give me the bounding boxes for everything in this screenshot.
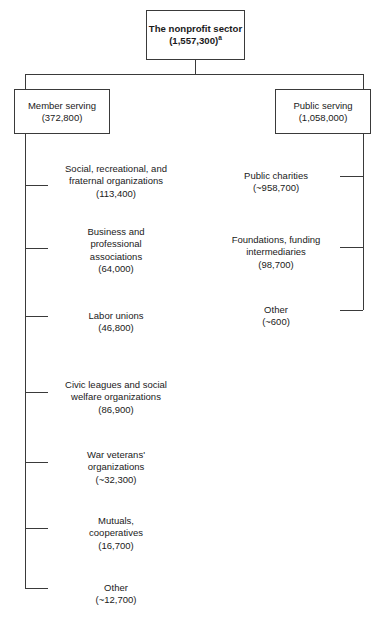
leaf-public-child-1: Foundations, funding intermediaries (98,…	[196, 234, 356, 271]
leaf-member-child-0: Social, recreational, and fraternal orga…	[26, 163, 206, 200]
branch-node-member-serving: Member serving (372,800)	[14, 89, 110, 134]
leaf-member-child-3: Civic leagues and social welfare organiz…	[26, 379, 206, 416]
branch-label-member-serving: Member serving	[28, 100, 96, 112]
root-node-nonprofit-sector: The nonprofit sector (1,557,300)a	[146, 10, 245, 60]
branch-node-public-serving: Public serving (1,058,000)	[275, 89, 371, 134]
connector-root-down	[195, 60, 196, 74]
footnote-marker-a: a	[218, 34, 222, 41]
connector-horizontal-bar	[25, 74, 364, 75]
root-node-label: The nonprofit sector	[149, 23, 242, 35]
leaf-public-child-2: Other (~600)	[196, 304, 356, 329]
leaf-member-child-6: Other (~12,700)	[26, 582, 206, 607]
connector-left-down	[25, 74, 26, 89]
leaf-public-child-0: Public charities (~958,700)	[196, 170, 356, 195]
branch-label-public-serving: Public serving	[293, 100, 352, 112]
branch-value-member-serving: (372,800)	[42, 112, 83, 124]
leaf-member-child-4: War veterans' organizations (~32,300)	[26, 449, 206, 486]
connector-right-down	[363, 74, 364, 89]
leaf-member-child-2: Labor unions (46,800)	[26, 310, 206, 335]
nonprofit-sector-org-chart: The nonprofit sector (1,557,300)a Member…	[0, 0, 384, 620]
spine-public-serving	[363, 134, 364, 310]
branch-value-public-serving: (1,058,000)	[299, 112, 348, 124]
root-node-value: (1,557,300)a	[169, 35, 222, 47]
leaf-member-child-1: Business and professional associations (…	[26, 226, 206, 275]
leaf-member-child-5: Mutuals, cooperatives (16,700)	[26, 515, 206, 552]
